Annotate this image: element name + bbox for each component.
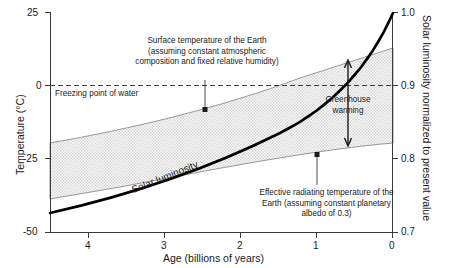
- y2-tick-label-1p0: 1.0: [401, 7, 415, 19]
- x-tick-label-4: 4: [85, 240, 91, 252]
- surface-temp-annotation: Surface temperature of the Earth (assumi…: [131, 36, 283, 68]
- x-tick-label-0: 0: [389, 240, 395, 252]
- x-tick-label-2: 2: [237, 240, 243, 252]
- effective-temp-annotation: Effective radiating temperature of the E…: [249, 188, 404, 220]
- effective-note-dot: [315, 152, 320, 157]
- greenhouse-warming-label-line2: warming: [316, 106, 380, 117]
- x-axis-title: Age (billions of years): [163, 252, 264, 264]
- y-tick-label-25: 25: [27, 7, 38, 19]
- y-tick-label-0: 0: [36, 80, 42, 92]
- y2-tick-label-0p9: 0.9: [401, 80, 415, 92]
- y2-tick-label-0p8: 0.8: [401, 153, 415, 165]
- y-tick-label-minus50: -50: [23, 226, 37, 238]
- x-tick-label-3: 3: [161, 240, 167, 252]
- temperature-band: [50, 48, 393, 199]
- freezing-point-annotation: Freezing point of water: [55, 89, 175, 100]
- greenhouse-warming-label-line1: Greenhouse: [316, 95, 380, 106]
- x-tick-label-1: 1: [313, 240, 319, 252]
- y-axis-title: Temperature (°C): [14, 94, 26, 175]
- y2-axis-title: Solar luminosity normalized to present v…: [421, 15, 433, 221]
- y2-tick-label-0p7: 0.7: [401, 226, 415, 238]
- surface-note-dot: [203, 107, 208, 112]
- faint-young-sun-chart: 25 0 -25 -50 1.0 0.9 0.8 0.7 4 3 2 1 0 T…: [0, 0, 452, 268]
